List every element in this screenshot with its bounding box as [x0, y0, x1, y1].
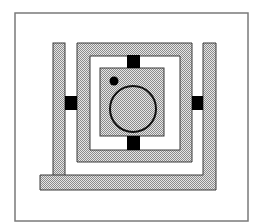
contact-dot	[110, 77, 119, 86]
bridge-left	[65, 96, 77, 110]
bridge-top	[127, 55, 140, 68]
ring-diagram	[0, 0, 264, 224]
bridge-bottom	[127, 136, 140, 150]
outer-left-bar	[53, 43, 65, 176]
bridge-right	[192, 96, 203, 110]
central-circle	[110, 86, 156, 132]
